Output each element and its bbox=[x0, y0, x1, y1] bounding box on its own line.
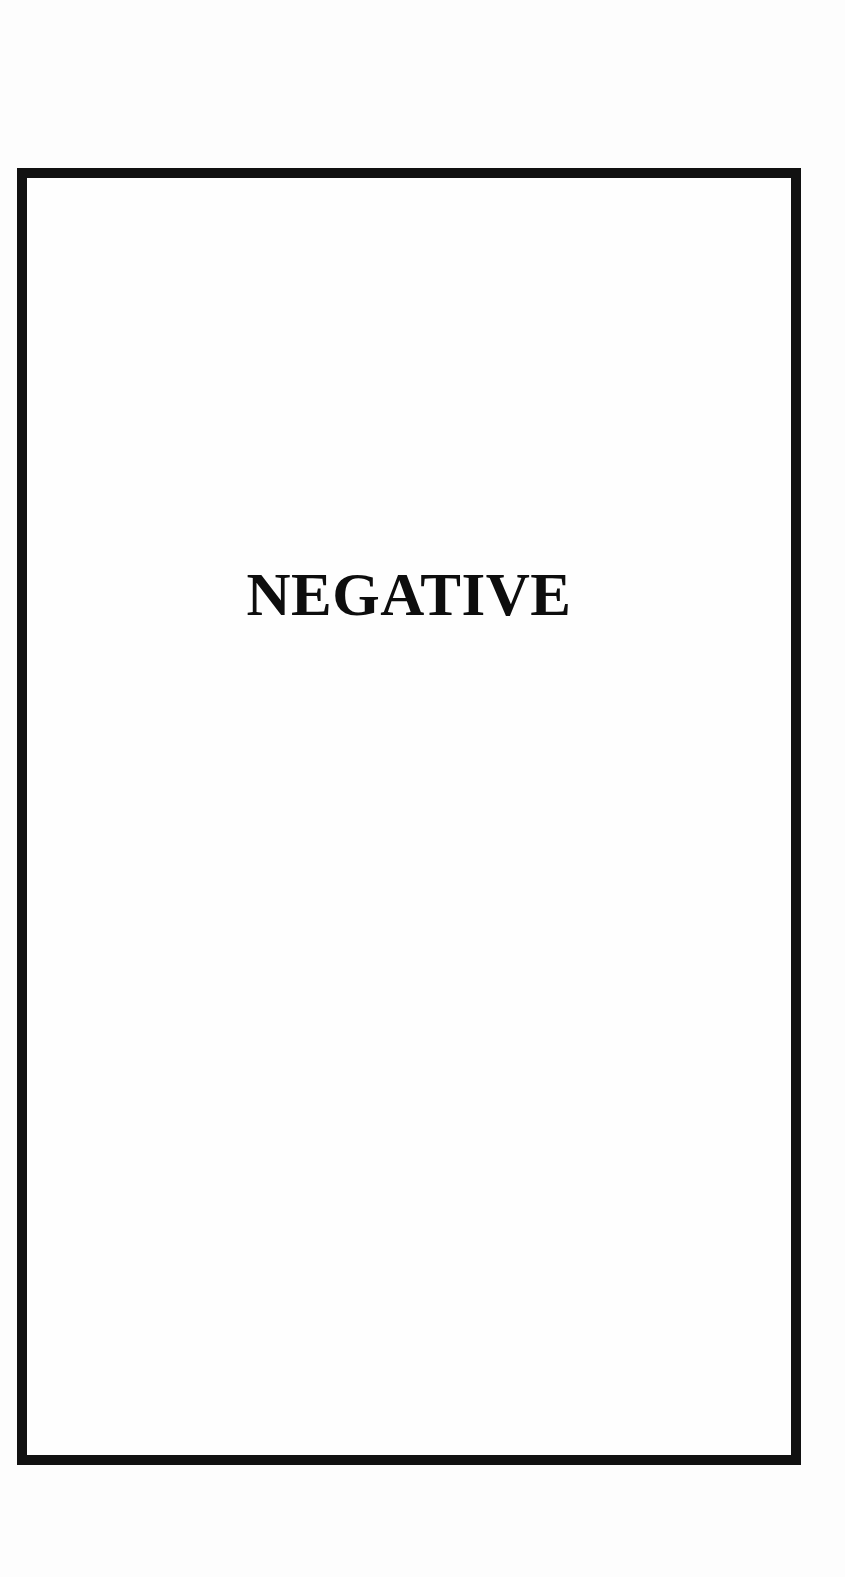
bordered-frame: NEGATIVE bbox=[17, 168, 801, 1465]
result-label: NEGATIVE bbox=[27, 560, 791, 630]
